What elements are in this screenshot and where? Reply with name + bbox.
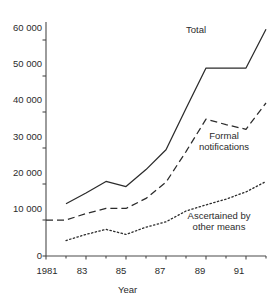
x-tick-label-83: 83 [62, 266, 102, 276]
series-label-ascertained-line1: Ascertained by [166, 210, 272, 221]
series-label-total-line1: Total [186, 24, 206, 35]
series-line-formal-notifications [46, 103, 266, 220]
y-tick-label-40000: 40 000 [0, 95, 42, 105]
x-tick-label-91: 91 [219, 266, 259, 276]
y-tick-label-0: 0 [0, 251, 42, 261]
x-tick-label-1981: 1981 [27, 266, 67, 276]
y-tick-label-50000: 50 000 [0, 59, 42, 69]
y-tick-label-10000: 10 000 [0, 204, 42, 214]
x-axis-title: Year [118, 285, 137, 295]
series-label-formal-line2: notifications [176, 141, 272, 152]
line-chart: 60 000 50 000 40 000 30 000 20 000 10 00… [0, 0, 274, 298]
series-line-total [66, 29, 266, 204]
y-tick-label-60000: 60 000 [0, 23, 42, 33]
y-tick-label-20000: 20 000 [0, 168, 42, 178]
series-label-ascertained-line2: other means [166, 221, 272, 232]
series-label-formal-notifications: Formal notifications [176, 130, 272, 152]
series-label-total: Total [186, 24, 206, 35]
x-tick-label-87: 87 [140, 266, 180, 276]
y-tick-label-30000: 30 000 [0, 132, 42, 142]
x-tick-label-85: 85 [101, 266, 141, 276]
x-tick-label-89: 89 [180, 266, 220, 276]
series-label-ascertained-other-means: Ascertained by other means [166, 210, 272, 232]
series-label-formal-line1: Formal [176, 130, 272, 141]
